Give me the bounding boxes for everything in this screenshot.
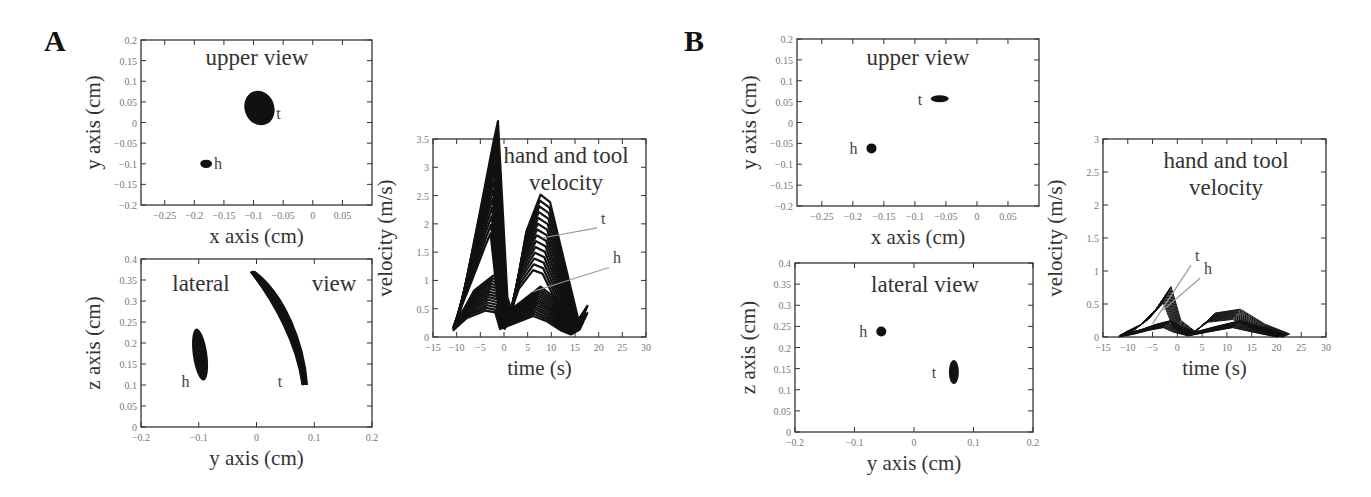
cluster-h — [876, 326, 886, 336]
cluster-h — [200, 160, 212, 168]
y-tick-label: 0.25 — [774, 321, 792, 332]
plot-title: hand and tool — [503, 143, 628, 168]
y-tick-label: 0.3 — [125, 296, 138, 307]
plot-title: upper view — [206, 45, 309, 70]
y-tick-label: −0.05 — [114, 138, 137, 149]
x-tick-label: 0.05 — [334, 210, 352, 221]
y-tick-label: −0.15 — [770, 180, 793, 191]
x-tick-label: −0.1 — [244, 210, 262, 221]
y-tick-label: 0.05 — [120, 401, 138, 412]
x-tick-label: −0.25 — [153, 210, 176, 221]
annotation-label-h: h — [1204, 260, 1212, 277]
y-axis-label: y axis (cm) — [81, 75, 105, 169]
y-axis-label: velocity (m/s) — [1043, 179, 1067, 296]
x-tick-label: 5 — [525, 342, 530, 353]
x-tick-label: 0 — [974, 211, 979, 222]
x-tick-label: 0 — [1175, 342, 1180, 353]
x-tick-label: −5 — [1147, 342, 1158, 353]
y-axis-label: z axis (cm) — [736, 301, 760, 394]
y-tick-label: 0 — [132, 118, 137, 129]
x-tick-label: 0 — [912, 437, 917, 448]
y-axis-label: y axis (cm) — [737, 75, 761, 169]
label-t: t — [918, 91, 923, 108]
y-tick-label: 0.4 — [779, 258, 792, 269]
label-t: t — [276, 105, 281, 122]
y-tick-label: 0.1 — [125, 76, 138, 87]
x-tick-label: −0.2 — [132, 432, 150, 443]
y-tick-label: 3.5 — [417, 134, 430, 145]
plot-title: upper view — [867, 45, 970, 70]
x-tick-label: −0.05 — [272, 210, 295, 221]
label-t: t — [932, 364, 937, 381]
y-axis-label: z axis (cm) — [81, 296, 105, 389]
x-tick-label: 0.2 — [366, 432, 379, 443]
trajectory-t — [252, 272, 304, 385]
cluster-t — [931, 95, 949, 102]
y-tick-label: 2.5 — [417, 191, 430, 202]
y-tick-label: 0.25 — [120, 317, 138, 328]
chart-b-5: −15−10−505101520253000.511.522.53time (s… — [1043, 134, 1331, 380]
cluster-h — [866, 143, 876, 153]
x-axis-label: x axis (cm) — [209, 224, 303, 248]
x-tick-label: −15 — [425, 342, 441, 353]
y-tick-label: 1 — [424, 275, 429, 286]
x-tick-label: 25 — [617, 342, 627, 353]
x-tick-label: 0.1 — [308, 432, 321, 443]
x-axis-label: y axis (cm) — [867, 451, 961, 475]
y-tick-label: 3 — [1094, 134, 1099, 145]
x-tick-label: 0 — [254, 432, 259, 443]
y-tick-label: 0.05 — [774, 406, 792, 417]
x-axis-label: time (s) — [507, 356, 572, 380]
x-tick-label: 15 — [570, 342, 580, 353]
y-tick-label: 0.05 — [120, 97, 138, 108]
y-tick-label: 0 — [788, 118, 793, 129]
y-tick-label: 0.2 — [781, 34, 794, 45]
y-tick-label: 0.5 — [1087, 299, 1100, 310]
plot-title: view — [312, 271, 357, 296]
trajectory-t — [253, 272, 305, 385]
x-tick-label: −0.15 — [212, 210, 235, 221]
x-tick-label: −10 — [449, 342, 465, 353]
y-tick-label: 0 — [132, 422, 137, 433]
trajectory-t — [252, 272, 304, 385]
plot-title: velocity — [1189, 175, 1264, 200]
x-tick-label: 0.05 — [999, 211, 1017, 222]
y-tick-label: −0.05 — [770, 138, 793, 149]
x-tick-label: −0.1 — [906, 211, 924, 222]
label-h: h — [214, 155, 222, 172]
x-tick-label: 0.2 — [1027, 437, 1040, 448]
y-tick-label: 0.05 — [776, 97, 794, 108]
y-tick-label: 2 — [1094, 200, 1099, 211]
y-axis-label: velocity (m/s) — [373, 179, 397, 296]
x-tick-label: 30 — [641, 342, 651, 353]
x-tick-label: −0.1 — [845, 437, 863, 448]
x-tick-label: −5 — [475, 342, 486, 353]
x-axis-label: x axis (cm) — [871, 225, 965, 249]
y-tick-label: 2 — [424, 219, 429, 230]
y-tick-label: 1.5 — [1087, 233, 1100, 244]
y-tick-label: 1.5 — [417, 247, 430, 258]
chart-b-3: −0.25−0.2−0.15−0.1−0.0500.05−0.2−0.15−0.… — [737, 34, 1039, 249]
cluster-h — [189, 328, 211, 382]
x-tick-label: 30 — [1321, 342, 1331, 353]
x-tick-label: −10 — [1120, 342, 1136, 353]
y-tick-label: 0.5 — [417, 304, 430, 315]
y-tick-label: 0 — [424, 332, 429, 343]
y-tick-label: 0 — [786, 427, 791, 438]
x-tick-label: −0.05 — [934, 211, 957, 222]
label-h: h — [181, 373, 189, 390]
y-tick-label: 3 — [424, 162, 429, 173]
plot-title: lateral view — [871, 272, 979, 297]
chart-b-4: −0.2−0.100.10.200.050.10.150.20.250.30.3… — [736, 258, 1039, 475]
annotation-label-h: h — [613, 249, 621, 266]
chart-a-2: −15−10−505101520253000.511.522.533.5time… — [373, 121, 651, 380]
y-tick-label: 2.5 — [1087, 167, 1100, 178]
x-tick-label: 10 — [1222, 342, 1232, 353]
x-tick-label: 20 — [594, 342, 604, 353]
chart-a-0: −0.25−0.2−0.15−0.1−0.0500.05−0.2−0.15−0.… — [81, 35, 372, 248]
trajectory-t — [253, 272, 305, 385]
x-tick-label: 15 — [1247, 342, 1257, 353]
y-tick-label: 0.1 — [125, 380, 138, 391]
x-tick-label: −0.1 — [190, 432, 208, 443]
y-tick-label: 0.3 — [779, 300, 792, 311]
